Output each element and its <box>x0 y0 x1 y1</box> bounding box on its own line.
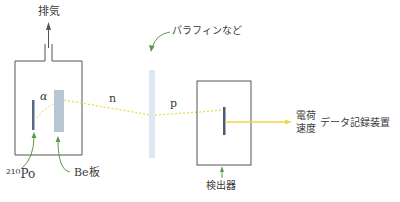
be-plate <box>54 90 64 132</box>
exhaust-arrow-icon <box>46 22 51 30</box>
be-arrowhead-icon <box>56 136 61 142</box>
paraffin-sheet <box>149 70 155 158</box>
detector-bar <box>223 107 226 135</box>
vacuum-chamber <box>15 61 82 155</box>
charge-label: 電荷 <box>296 110 316 122</box>
polonium-label: ²¹⁰Po <box>6 168 35 180</box>
po-pointer-arrow <box>22 136 34 168</box>
paraffin-pointer-arrow <box>152 32 170 48</box>
paraffin-label: パラフィンなど <box>172 25 242 37</box>
proton-label: p <box>170 98 177 110</box>
exhaust-pipe <box>45 22 52 61</box>
recorder-label: データ記録装置 <box>320 117 390 129</box>
proton-beam <box>155 110 222 115</box>
po-arrowhead-icon <box>32 132 37 138</box>
exhaust-label: 排気 <box>38 6 60 18</box>
detector-label: 検出器 <box>206 180 236 192</box>
neutron-label: n <box>109 93 116 105</box>
beryllium-label: Be板 <box>74 167 100 179</box>
output-arrow-icon <box>285 120 292 125</box>
paraffin-arrowhead-icon <box>149 45 155 52</box>
velocity-label: 速度 <box>296 123 316 135</box>
alpha-beam <box>37 104 54 118</box>
neutron-beam <box>64 100 150 115</box>
alpha-label: α <box>40 91 47 103</box>
be-pointer-arrow <box>58 140 70 172</box>
po-source <box>32 100 35 130</box>
detector-arrowhead-icon <box>220 166 224 172</box>
